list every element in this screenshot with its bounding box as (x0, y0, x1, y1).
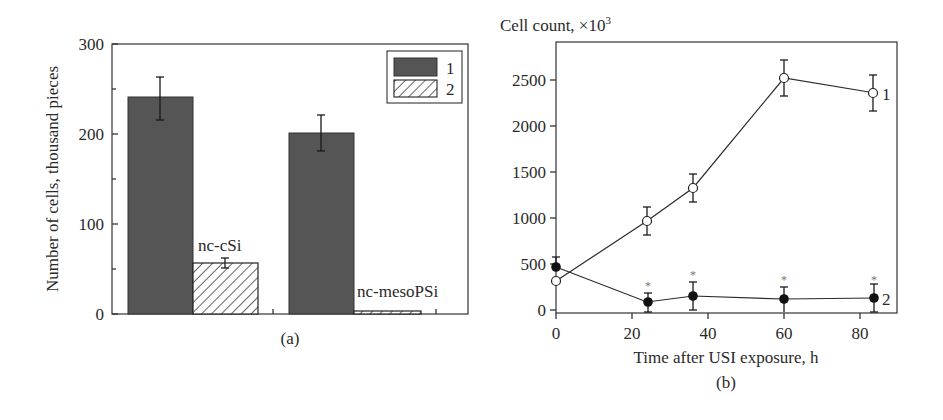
x-tick-label: 80 (852, 324, 869, 343)
panel-caption-a: (a) (281, 329, 300, 348)
bar-series2-nc-cSi (193, 263, 258, 314)
y-axis-title-b: Cell count, ×103 (500, 14, 611, 35)
y-tick-label: 300 (79, 35, 105, 54)
series-1-line (556, 78, 875, 281)
y-tick-label: 500 (521, 255, 547, 274)
open-circle-marker (552, 277, 561, 286)
y-tick-labels-a: 0 100 200 300 (79, 35, 105, 324)
series-2-line (556, 267, 875, 302)
legend-label-2: 2 (446, 80, 455, 99)
x-tick-labels-b: 0 20 40 60 80 (552, 324, 869, 343)
filled-circle-marker (869, 293, 879, 303)
open-circle-marker (689, 184, 698, 193)
y-axis-title-a: Number of cells, thousand pieces (43, 66, 62, 292)
y-axis-title-exponent: 3 (605, 14, 611, 26)
legend-swatch-solid (394, 58, 437, 76)
series-label-1: 1 (882, 85, 891, 104)
y-tick-label: 1500 (512, 163, 546, 182)
annotation-nc-cSi: nc-cSi (198, 236, 242, 255)
significance-star: * (690, 268, 696, 282)
filled-circle-marker (551, 262, 561, 272)
panel-caption-b: (b) (716, 373, 736, 392)
y-tick-labels-b: 0 500 1000 1500 2000 2500 (512, 71, 546, 320)
y-tick-label: 1000 (512, 209, 546, 228)
bar-series2-nc-mesoPSi (354, 311, 421, 314)
significance-star: * (871, 273, 877, 287)
x-tick-label: 20 (624, 324, 641, 343)
bar-series1-nc-mesoPSi (289, 133, 354, 314)
legend-a: 1 2 (387, 51, 462, 103)
legend-label-1: 1 (446, 59, 455, 78)
x-tick-label: 60 (776, 324, 793, 343)
filled-circle-marker (688, 291, 698, 301)
x-tick-label: 0 (552, 324, 561, 343)
bar-series1-nc-cSi (128, 97, 193, 314)
y-tick-label: 2500 (512, 71, 546, 90)
line-chart-b: Cell count, ×103 0 500 1000 1500 2000 25… (500, 14, 897, 392)
annotation-nc-mesoPSi: nc-mesoPSi (357, 282, 439, 301)
plot-frame-b (556, 42, 897, 313)
open-circle-marker (780, 74, 789, 83)
x-axis-title-b: Time after USI exposure, h (634, 348, 819, 367)
y-tick-label: 100 (79, 215, 105, 234)
series-label-2: 2 (882, 290, 891, 309)
y-ticks-b (550, 80, 556, 310)
legend-swatch-hatched (394, 80, 437, 97)
figure: Number of cells, thousand pieces 0 100 2… (0, 0, 943, 420)
open-circle-marker (869, 89, 878, 98)
filled-circle-marker (643, 297, 653, 307)
y-tick-label: 2000 (512, 117, 546, 136)
y-tick-label: 0 (96, 305, 105, 324)
x-tick-label: 40 (700, 324, 717, 343)
significance-star: * (781, 273, 787, 287)
series-1-markers (552, 74, 878, 286)
significance-stars: * * * * (645, 268, 877, 293)
filled-circle-marker (779, 294, 789, 304)
y-axis-title-text: Cell count, ×10 (500, 16, 605, 35)
series-1-error-bars (643, 60, 877, 235)
significance-star: * (645, 279, 651, 293)
bar-chart-a: Number of cells, thousand pieces 0 100 2… (43, 35, 468, 348)
y-tick-label: 200 (79, 125, 105, 144)
x-ticks-b (556, 313, 860, 319)
open-circle-marker (643, 217, 652, 226)
y-tick-label: 0 (538, 301, 547, 320)
